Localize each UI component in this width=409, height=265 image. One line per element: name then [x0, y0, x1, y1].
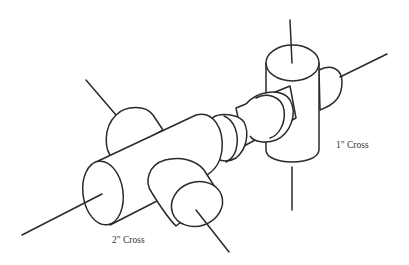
cross-2in-back-line — [86, 80, 116, 115]
pipe-fitting-diagram — [0, 0, 409, 265]
cross-1in-right-line — [340, 54, 387, 77]
label-1in-cross: 1" Cross — [336, 140, 369, 150]
cross-1in-right-branch — [319, 67, 342, 110]
label-2in-cross: 2" Cross — [112, 235, 145, 245]
